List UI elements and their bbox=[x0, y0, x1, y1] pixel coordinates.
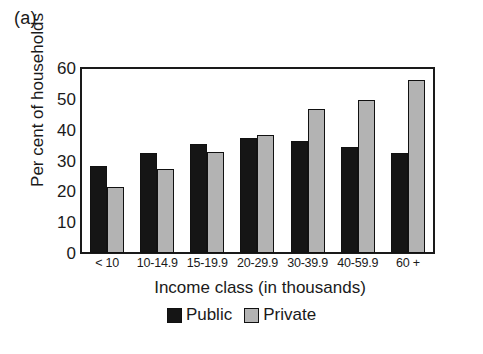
y-axis-tick-label: 50 bbox=[38, 90, 76, 107]
x-axis-tick-label: < 10 bbox=[82, 256, 132, 270]
x-axis-tick-label: 15-19.9 bbox=[182, 256, 232, 270]
bar-group bbox=[283, 69, 333, 253]
y-axis-tick-label: 30 bbox=[38, 152, 76, 169]
bar-public[interactable] bbox=[190, 144, 207, 253]
y-axis-tick-label: 60 bbox=[38, 60, 76, 77]
bar-group bbox=[82, 69, 132, 253]
bar-private[interactable] bbox=[408, 80, 425, 253]
chart-legend: PublicPrivate bbox=[0, 305, 483, 325]
y-axis-tick-label: 40 bbox=[38, 121, 76, 138]
bar-private[interactable] bbox=[207, 152, 224, 253]
bar-public[interactable] bbox=[391, 153, 408, 253]
bar-private[interactable] bbox=[257, 135, 274, 253]
bar-group bbox=[132, 69, 182, 253]
x-axis-tick-label: 10-14.9 bbox=[132, 256, 182, 270]
bar-group bbox=[232, 69, 282, 253]
x-axis-tick-label: 30-39.9 bbox=[283, 256, 333, 270]
bar-public[interactable] bbox=[140, 153, 157, 253]
y-axis-tick-labels: 0102030405060 bbox=[38, 67, 76, 254]
gray-square-icon bbox=[244, 308, 259, 323]
bar-public[interactable] bbox=[90, 166, 107, 253]
x-axis-title: Income class (in thousands) bbox=[60, 278, 460, 298]
bar-private[interactable] bbox=[358, 100, 375, 253]
y-axis-tick-label: 20 bbox=[38, 183, 76, 200]
bar-private[interactable] bbox=[157, 169, 174, 253]
bar-group bbox=[333, 69, 383, 253]
y-axis-tick-label: 0 bbox=[38, 245, 76, 262]
figure-panel-a: (a) Per cent of households 0102030405060… bbox=[0, 0, 483, 354]
plot-area bbox=[82, 69, 433, 253]
x-axis-tick-label: 60 + bbox=[383, 256, 433, 270]
legend-entry-private[interactable]: Private bbox=[244, 305, 316, 325]
black-square-icon bbox=[167, 308, 182, 323]
bar-group bbox=[383, 69, 433, 253]
bar-public[interactable] bbox=[291, 141, 308, 253]
legend-entry-public[interactable]: Public bbox=[167, 305, 232, 325]
bar-public[interactable] bbox=[240, 138, 257, 253]
legend-label: Public bbox=[186, 305, 232, 325]
bar-public[interactable] bbox=[341, 147, 358, 253]
bar-private[interactable] bbox=[107, 187, 124, 253]
x-axis-tick-labels: < 1010-14.915-19.920-29.930-39.940-59.96… bbox=[82, 256, 433, 270]
y-axis-tick-label: 10 bbox=[38, 214, 76, 231]
legend-label: Private bbox=[263, 305, 316, 325]
x-axis-tick-label: 40-59.9 bbox=[333, 256, 383, 270]
x-axis-tick-label: 20-29.9 bbox=[232, 256, 282, 270]
bar-group bbox=[182, 69, 232, 253]
bar-private[interactable] bbox=[308, 109, 325, 253]
